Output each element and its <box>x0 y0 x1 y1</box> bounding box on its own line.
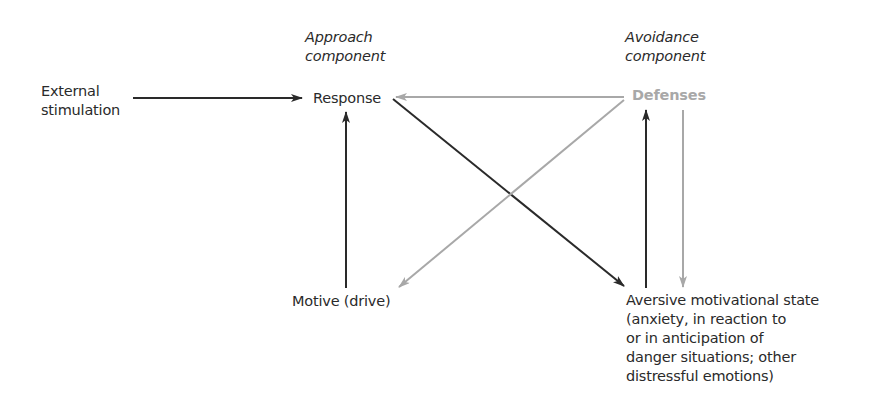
approach-header-line2: component <box>305 47 385 66</box>
aversive-line5: distressful emotions) <box>626 367 819 386</box>
approach-component-header: Approach component <box>305 28 385 66</box>
motive-node: Motive (drive) <box>292 292 390 311</box>
aversive-line2: (anxiety, in reaction to <box>626 310 819 329</box>
avoidance-component-header: Avoidance component <box>625 28 705 66</box>
aversive-state-node: Aversive motivational state (anxiety, in… <box>626 291 819 386</box>
aversive-line3: or in anticipation of <box>626 329 819 348</box>
aversive-line4: danger situations; other <box>626 348 819 367</box>
external-stimulation-node: External stimulation <box>41 82 120 120</box>
approach-header-line1: Approach <box>305 28 385 47</box>
defenses-node: Defenses <box>632 86 706 105</box>
external-stimulation-line1: External <box>41 82 120 101</box>
diagram-canvas: Approach component Avoidance component E… <box>0 0 872 409</box>
external-stimulation-line2: stimulation <box>41 101 120 120</box>
avoidance-header-line1: Avoidance <box>625 28 705 47</box>
response-node: Response <box>313 89 381 108</box>
avoidance-header-line2: component <box>625 47 705 66</box>
aversive-line1: Aversive motivational state <box>626 291 819 310</box>
arrow-response-to-aversive <box>393 99 624 286</box>
